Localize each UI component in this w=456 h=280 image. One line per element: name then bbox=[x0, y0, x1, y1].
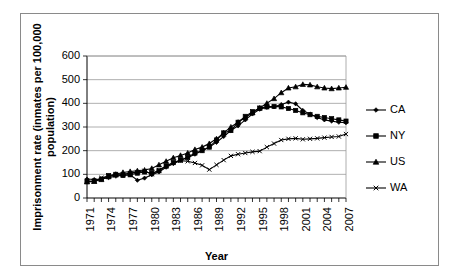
marker-cross bbox=[214, 163, 218, 167]
marker-triangle bbox=[200, 145, 205, 150]
marker-triangle bbox=[156, 162, 161, 167]
marker-triangle bbox=[164, 159, 169, 164]
y-tick-label: 500 bbox=[62, 73, 80, 85]
legend-label: US bbox=[390, 155, 405, 167]
marker-cross bbox=[272, 141, 276, 145]
x-tick-label: 1980 bbox=[149, 207, 161, 231]
y-gridlines: 0100200300400500600 bbox=[62, 49, 346, 203]
x-tick-label: 1998 bbox=[278, 207, 290, 231]
y-axis-title-line1: Imprisonment rate (inmates per 100,000 bbox=[31, 23, 43, 230]
legend-item-ca[interactable]: CA bbox=[366, 103, 406, 115]
x-tick-label: 1977 bbox=[127, 207, 139, 231]
chart-frame: 0100200300400500600197119741977198019831… bbox=[20, 13, 439, 266]
marker-square bbox=[322, 115, 326, 119]
marker-cross bbox=[207, 168, 211, 172]
marker-square bbox=[279, 105, 283, 109]
x-tick-label: 1995 bbox=[257, 207, 269, 231]
x-tick-label: 1992 bbox=[235, 207, 247, 231]
marker-square bbox=[286, 106, 290, 110]
series-group bbox=[84, 82, 348, 184]
marker-square bbox=[301, 111, 305, 115]
legend-item-us[interactable]: US bbox=[366, 155, 405, 167]
y-tick-label: 600 bbox=[62, 49, 80, 61]
y-axis-title-line2: population) bbox=[44, 97, 56, 157]
marker-triangle bbox=[185, 150, 190, 155]
marker-square bbox=[186, 155, 190, 159]
x-tick-label: 1989 bbox=[213, 207, 225, 231]
marker-triangle bbox=[149, 166, 154, 171]
x-tick-label: 1974 bbox=[105, 207, 117, 231]
y-tick-label: 300 bbox=[62, 120, 80, 132]
legend-label: NY bbox=[390, 129, 406, 141]
y-tick-label: 400 bbox=[62, 96, 80, 108]
marker-square bbox=[272, 104, 276, 108]
series-line-us bbox=[87, 84, 346, 182]
marker-cross bbox=[265, 145, 269, 149]
x-tick-label: 2004 bbox=[321, 207, 333, 231]
marker-square bbox=[330, 117, 334, 121]
y-tick-label: 0 bbox=[74, 191, 80, 203]
marker-square bbox=[315, 114, 319, 118]
x-tick-label: 2007 bbox=[343, 207, 355, 231]
y-tick-label: 200 bbox=[62, 144, 80, 156]
chart-legend: CANYUSWA bbox=[366, 103, 408, 193]
y-tick-label: 100 bbox=[62, 167, 80, 179]
marker-triangle bbox=[207, 141, 212, 146]
marker-diamond bbox=[374, 108, 379, 113]
x-ticks: 1971197419771980198319861989199219951998… bbox=[84, 198, 355, 231]
marker-diamond bbox=[142, 176, 146, 180]
marker-square bbox=[294, 108, 298, 112]
x-tick-label: 1986 bbox=[192, 207, 204, 231]
marker-cross bbox=[222, 158, 226, 162]
marker-square bbox=[308, 113, 312, 117]
x-tick-label: 1983 bbox=[170, 207, 182, 231]
marker-square bbox=[337, 118, 341, 122]
series-us bbox=[84, 82, 348, 184]
x-tick-label: 1971 bbox=[84, 207, 96, 231]
legend-label: WA bbox=[390, 181, 408, 193]
legend-label: CA bbox=[390, 103, 406, 115]
marker-square bbox=[344, 119, 348, 123]
marker-triangle bbox=[279, 90, 284, 95]
legend-item-ny[interactable]: NY bbox=[366, 129, 406, 141]
marker-square bbox=[374, 134, 379, 139]
legend-item-wa[interactable]: WA bbox=[366, 181, 408, 193]
line-chart: 0100200300400500600197119741977198019831… bbox=[21, 14, 438, 265]
x-axis-title: Year bbox=[205, 250, 229, 262]
x-tick-label: 2001 bbox=[300, 207, 312, 231]
